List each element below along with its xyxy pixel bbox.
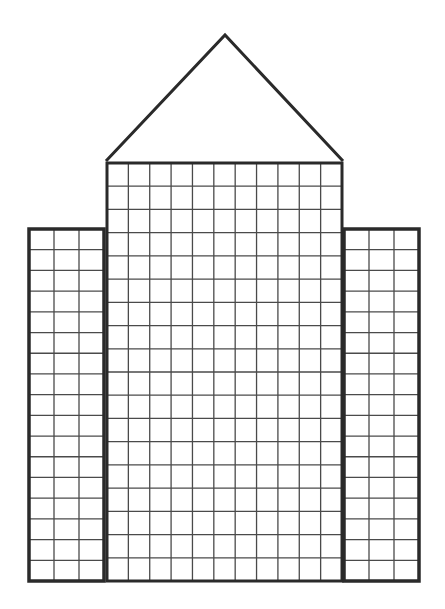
roof-triangle [106,35,343,161]
right-tower [344,229,419,581]
building-drawing [0,0,445,609]
center-tower [107,163,342,581]
left-tower [29,229,104,581]
left-tower-frame [29,229,104,581]
right-tower-frame [344,229,419,581]
